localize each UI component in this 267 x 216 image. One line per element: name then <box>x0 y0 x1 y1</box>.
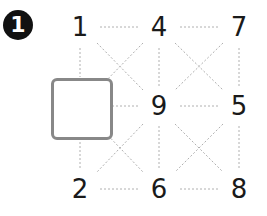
grid-cell-r1c1: 9 <box>144 91 174 121</box>
grid-cell-r2c2: 8 <box>224 174 254 204</box>
grid-cell-r1c2: 5 <box>224 91 254 121</box>
grid-cell-r0c0: 1 <box>65 12 95 42</box>
grid-cell-r2c0: 2 <box>65 174 95 204</box>
grid-cell-r2c1: 6 <box>144 174 174 204</box>
grid-cell-r0c2: 7 <box>224 12 254 42</box>
step-badge: 1 <box>3 10 33 40</box>
grid-cell-r0c1: 4 <box>144 12 174 42</box>
empty-answer-box[interactable] <box>51 78 113 140</box>
